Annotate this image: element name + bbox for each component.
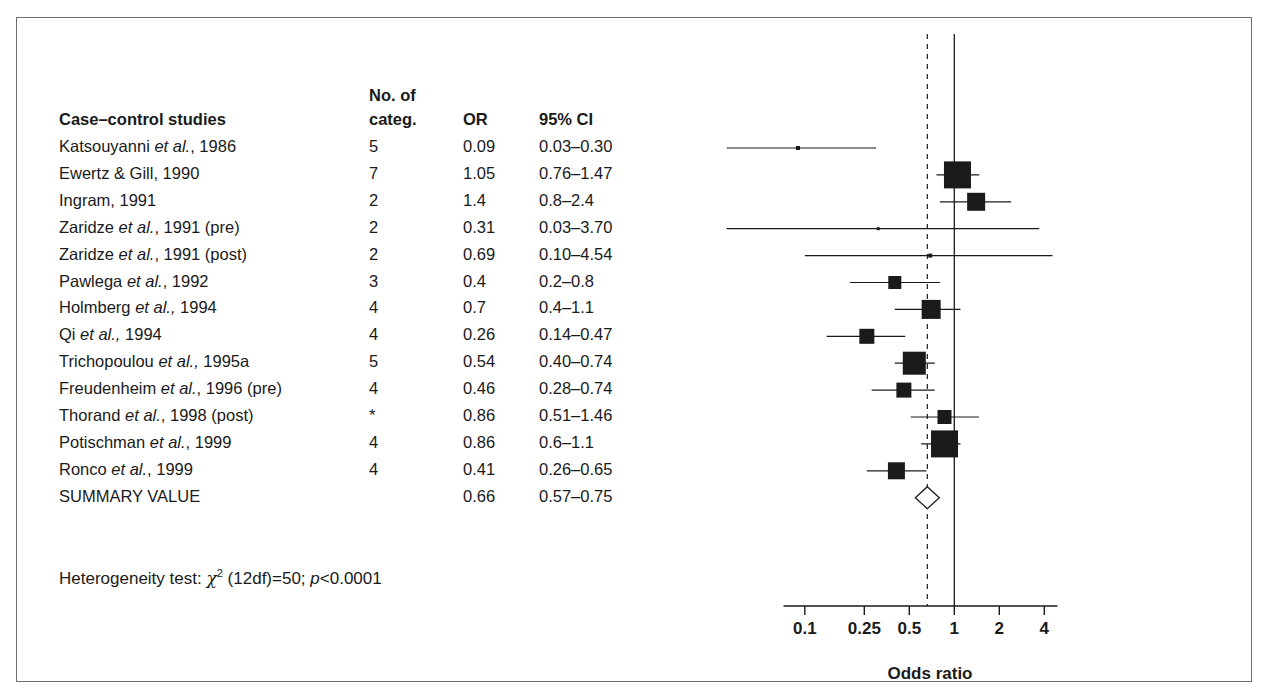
forest-row-marker (867, 462, 926, 479)
forest-row-marker (827, 329, 906, 344)
forest-plot-figure: Case–control studies No. of categ. OR 95… (16, 17, 1252, 682)
forest-row-marker (850, 276, 940, 289)
effect-size-square (896, 383, 911, 398)
x-axis-tick-label: 0.25 (848, 619, 881, 639)
heterogeneity-prefix: Heterogeneity test: (59, 569, 202, 588)
effect-size-square (796, 146, 800, 150)
effect-size-square (903, 352, 926, 375)
chi-symbol: χ (206, 568, 216, 588)
chi-exponent: 2 (217, 567, 223, 579)
forest-row-marker (727, 146, 876, 150)
effect-size-square (888, 276, 901, 289)
axis-label-odds-ratio: Odds ratio (887, 664, 972, 684)
x-axis-tick-label: 2 (995, 619, 1004, 639)
forest-row-marker (911, 410, 979, 424)
p-value: <0.0001 (320, 569, 382, 588)
effect-size-square (931, 430, 958, 457)
effect-size-square (944, 161, 971, 188)
forest-row-marker (936, 161, 979, 188)
effect-size-square (922, 300, 941, 319)
forest-row-marker (727, 227, 1040, 230)
x-axis-tick-label: 1 (950, 619, 959, 639)
effect-size-square (877, 227, 880, 230)
effect-size-square (938, 410, 952, 424)
summary-diamond (915, 487, 939, 509)
heterogeneity-test: Heterogeneity test: χ2 (12df)=50; p<0.00… (59, 567, 382, 589)
x-axis-tick-label: 0.1 (793, 619, 817, 639)
forest-row-marker (895, 352, 935, 375)
x-axis-tick-label: 0.5 (897, 619, 921, 639)
forest-row-marker (940, 193, 1011, 211)
x-axis-tick-label: 4 (1040, 619, 1049, 639)
effect-size-square (888, 462, 905, 479)
heterogeneity-df: (12df)=50; (228, 569, 306, 588)
forest-row-marker (872, 383, 935, 398)
effect-size-square (928, 254, 932, 258)
p-symbol: p (310, 569, 319, 588)
effect-size-square (859, 329, 874, 344)
forest-row-marker (805, 254, 1053, 258)
forest-row-marker (895, 300, 961, 319)
effect-size-square (967, 193, 985, 211)
